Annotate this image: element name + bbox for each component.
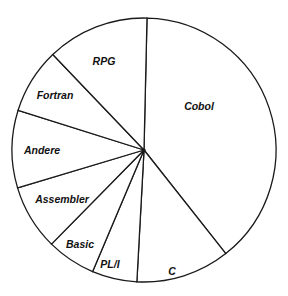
center-point [142,148,145,151]
pie-chart: CobolCPL/IBasicAssemblerAndereFortranRPG [0,0,288,296]
slice-label-rpg: RPG [93,55,116,67]
slice-label-pl-i: PL/I [100,258,120,270]
slice-label-assembler: Assembler [34,193,90,205]
slice-label-cobol: Cobol [184,100,215,112]
slice-label-andere: Andere [23,144,60,156]
slice-label-basic: Basic [66,238,94,250]
slice-label-c: C [168,265,176,277]
slice-label-fortran: Fortran [37,89,74,101]
